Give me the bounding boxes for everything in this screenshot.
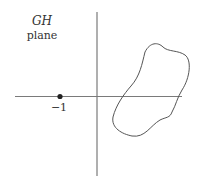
gh-contour-curve [113, 44, 190, 137]
critical-point-label: −1 [51, 101, 67, 114]
critical-point-minus-one [57, 94, 62, 99]
gh-plane-diagram: GH plane −1 [0, 0, 198, 184]
plane-title-plane: plane [27, 29, 58, 42]
plane-title-gh: GH [32, 14, 53, 28]
